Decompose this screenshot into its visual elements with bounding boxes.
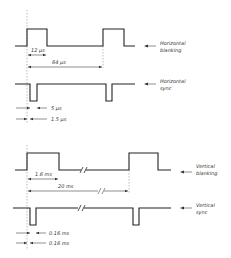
- vertical-sync-waveform: [13, 205, 171, 225]
- horizontal-blanking-waveform: [15, 29, 135, 46]
- blanking-width-dimension-vertical: 1.6 ms: [28, 171, 58, 180]
- horizontal-blanking-label-line1: Horizontal: [160, 40, 186, 46]
- blanking-width-label-horizontal: 12 µs: [31, 47, 45, 54]
- vertical-blanking-waveform: [15, 153, 171, 173]
- horizontal-sync-label-line2: sync: [160, 85, 172, 92]
- field-period-label: 20 ms: [58, 183, 74, 189]
- line-period-label: 64 µs: [52, 59, 66, 66]
- horizontal-sync-label-line1: Horizontal: [160, 78, 186, 84]
- vertical-sync-label-line1: Vertical: [196, 202, 215, 208]
- front-porch-label-vertical: 0.16 ms: [49, 240, 70, 246]
- vertical-sync-callout: Vertical sync: [180, 202, 215, 216]
- vertical-blanking-label-line1: Vertical: [196, 163, 215, 169]
- line-period-dimension: 64 µs: [28, 59, 102, 68]
- blanking-width-dimension-horizontal: 12 µs: [28, 47, 46, 56]
- horizontal-blanking-callout: Horizontal blanking: [144, 40, 186, 54]
- sync-width-dimension-horizontal: 5 µs: [16, 105, 62, 112]
- front-porch-label-horizontal: 1.5 µs: [51, 116, 67, 123]
- vertical-blanking-label-line2: blanking: [196, 170, 217, 177]
- horizontal-blanking-label-line2: blanking: [160, 47, 181, 54]
- vertical-blanking-callout: Vertical blanking: [180, 163, 217, 177]
- front-porch-dimension-horizontal: 1.5 µs: [16, 116, 67, 123]
- sync-width-label-horizontal: 5 µs: [51, 105, 62, 112]
- horizontal-sync-callout: Horizontal sync: [144, 78, 186, 92]
- timing-diagram: 12 µs 64 µs Horizontal blanking Horizont…: [0, 0, 231, 258]
- front-porch-dimension-vertical: 0.16 ms: [16, 240, 70, 246]
- field-period-dimension: 20 ms: [28, 183, 128, 194]
- sync-width-label-vertical: 0.16 ms: [49, 230, 70, 236]
- blanking-width-label-vertical: 1.6 ms: [35, 171, 52, 177]
- sync-width-dimension-vertical: 0.16 ms: [16, 230, 70, 236]
- horizontal-sync-waveform: [15, 84, 135, 101]
- vertical-sync-label-line2: sync: [196, 209, 208, 216]
